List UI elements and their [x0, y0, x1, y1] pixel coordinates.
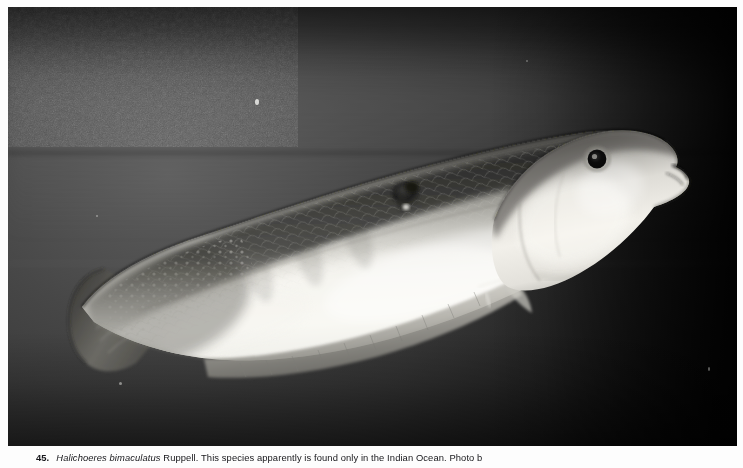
fish-photograph	[8, 7, 737, 446]
fish-body-illustration	[8, 7, 737, 446]
figure-number: 45.	[36, 452, 49, 463]
book-page: 45.Halichoeres bimaculatus Ruppell. This…	[0, 0, 743, 468]
species-name: Halichoeres bimaculatus	[56, 452, 160, 463]
figure-caption-line: 45.Halichoeres bimaculatus Ruppell. This…	[36, 452, 736, 464]
fish-eye	[584, 147, 611, 172]
figure-caption: 45.Halichoeres bimaculatus Ruppell. This…	[0, 452, 743, 468]
caption-text: This species apparently is found only in…	[201, 452, 482, 463]
species-authority: Ruppell.	[163, 452, 198, 463]
